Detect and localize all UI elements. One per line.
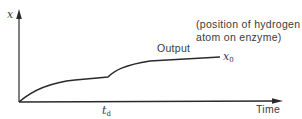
steady-state-label-sub: 0 [229, 56, 233, 64]
delay-time-label-sub: d [106, 110, 110, 118]
output-curve [19, 57, 220, 102]
steady-state-label: x0 [223, 50, 234, 64]
y-axis-arrowhead-icon [16, 9, 22, 19]
annotation-line-1: (position of hydrogen [196, 18, 300, 31]
output-vs-time-diagram: x td Output x0 (position of hydrogen ato… [0, 0, 302, 119]
delay-time-label: td [102, 104, 111, 118]
x-axis [19, 101, 275, 102]
x-axis-label: Time [256, 103, 280, 115]
annotation-line-2: atom on enzyme) [196, 31, 300, 44]
output-label: Output [157, 42, 190, 54]
annotation: (position of hydrogen atom on enzyme) [196, 18, 300, 44]
y-axis-label: x [7, 8, 13, 21]
